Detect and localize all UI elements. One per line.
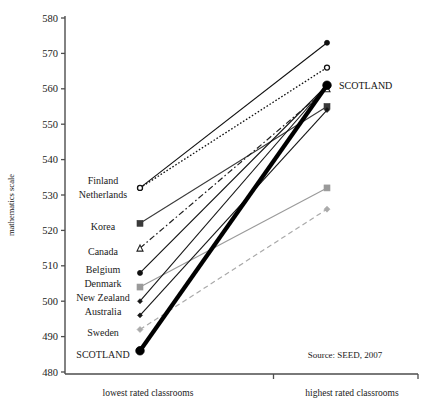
y-tick-label: 510 [42,260,58,271]
y-tick-label: 500 [42,296,58,307]
y-tick-label: 520 [42,225,58,236]
marker-sweden-lowest [137,327,143,333]
series-denmark [137,185,330,290]
country-label-sweden: Sweden [87,327,119,338]
country-label-new-zealand: New Zealand [76,292,130,303]
country-label-canada: Canada [88,246,119,257]
y-axis-title: mathematics scale [6,174,16,236]
country-label-netherlands: Netherlands [79,189,127,200]
country-label-scotland: SCOTLAND [76,349,129,360]
marker-finland-highest [325,40,330,45]
y-tick-label: 550 [42,119,58,130]
country-label-korea: Korea [91,221,116,232]
marker-denmark-lowest [137,284,143,290]
series-line-finland [140,43,327,188]
marker-sweden-highest [324,206,330,212]
annotation-source-note: Source: SEED, 2007 [308,350,383,360]
x-category-label-lowest: lowest rated classrooms [103,388,194,398]
series-line-scotland [140,85,327,351]
marker-korea-lowest [137,220,143,226]
series-scotland [136,81,332,355]
y-tick-label: 490 [42,331,58,342]
marker-scotland-lowest [136,347,145,356]
annotation-scotland-label: SCOTLAND [339,80,392,91]
y-tick-label: 580 [42,13,58,24]
marker-netherlands-highest [325,65,330,70]
country-label-finland: Finland [88,175,119,186]
series-line-canada [140,89,327,248]
series-australia [138,108,330,318]
y-tick-label: 560 [42,83,58,94]
mathematics-scale-chart: 480490500510520530540550560570580mathema… [0,0,424,415]
country-label-denmark: Denmark [84,278,121,289]
y-tick-label: 540 [42,154,58,165]
chart-canvas: 480490500510520530540550560570580mathema… [0,0,424,415]
series-netherlands [138,65,330,190]
series-line-australia [140,110,327,315]
marker-belgium-lowest [138,270,143,275]
x-category-label-highest: highest rated classrooms [305,388,399,398]
marker-netherlands-lowest [138,185,143,190]
marker-denmark-highest [324,185,330,191]
y-tick-label: 530 [42,190,58,201]
series-line-denmark [140,188,327,287]
country-label-belgium: Belgium [86,264,121,275]
series-belgium [138,83,330,276]
country-label-australia: Australia [85,306,122,317]
y-tick-label: 570 [42,48,58,59]
y-tick-label: 480 [42,367,58,378]
marker-scotland-highest [323,81,332,90]
